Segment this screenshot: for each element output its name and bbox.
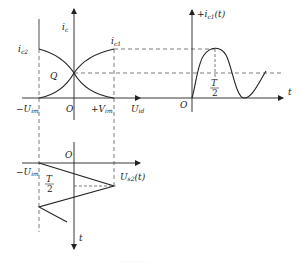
- output-half-period-num: T: [211, 78, 218, 88]
- transfer-y-axis-label: ic: [62, 22, 69, 33]
- input-origin-label: O: [65, 150, 73, 160]
- pos-input-limit-label: +Vim: [91, 104, 113, 114]
- figure-caption: · · · · · · · ·: [120, 258, 149, 265]
- neg-input-limit-label: −Uim: [16, 104, 39, 114]
- output-x-axis-label: t: [288, 87, 292, 97]
- output-y-axis-label: +ic1(t): [197, 9, 226, 20]
- input-wave-label: Us2(t): [120, 172, 146, 182]
- quiescent-point-label: Q: [50, 71, 58, 81]
- output-half-period-den: 2: [212, 88, 218, 98]
- input-time-axis-label: t: [79, 233, 83, 243]
- ic1-label: ic1: [111, 36, 121, 47]
- ic2-label: ic2: [18, 44, 28, 55]
- output-origin-label: O: [180, 100, 188, 110]
- transfer-origin-label: O: [66, 104, 74, 114]
- output-wave-plot: +ic1(t) T 2 O t: [140, 9, 292, 112]
- transfer-x-axis-label: Uid: [131, 104, 145, 114]
- input-neg-limit-label: −Uim: [16, 167, 39, 177]
- input-half-period-den: 2: [47, 184, 53, 194]
- input-half-period-num: T: [46, 174, 53, 184]
- input-wave-plot: O −Uim T 2 Us2(t) t: [16, 142, 146, 249]
- transfer-plot: ic ic2 ic1 Q O −Uim +Vim Uid: [16, 9, 282, 232]
- diagram-canvas: ic ic2 ic1 Q O −Uim +Vim Uid +ic1(t) T 2…: [0, 0, 300, 266]
